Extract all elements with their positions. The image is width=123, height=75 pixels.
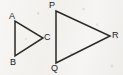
triangle-abc-outline (15, 21, 43, 56)
vertex-label-a: A (9, 12, 15, 21)
vertex-label-r: R (112, 31, 119, 40)
geometry-figure: A B C P Q R (0, 0, 123, 75)
triangle-pqr-outline (56, 11, 110, 63)
vertex-label-c: C (44, 33, 51, 42)
triangles-drawing (0, 0, 123, 75)
vertex-label-p: P (49, 1, 55, 10)
vertex-label-b: B (10, 58, 16, 67)
vertex-label-q: Q (51, 64, 58, 73)
